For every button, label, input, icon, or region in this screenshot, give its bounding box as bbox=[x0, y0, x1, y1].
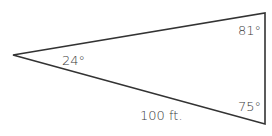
triangle-shape bbox=[13, 13, 265, 124]
triangle-diagram: ??? ft. 81° 24° 75° 100 ft. bbox=[0, 0, 272, 136]
bottom-side-label: 100 ft. bbox=[140, 108, 183, 123]
angle-label-left: 24° bbox=[62, 53, 85, 68]
angle-label-bottom-right: 75° bbox=[238, 99, 261, 114]
angle-label-top-right: 81° bbox=[238, 23, 261, 38]
top-side-label: ??? ft. bbox=[86, 0, 124, 2]
